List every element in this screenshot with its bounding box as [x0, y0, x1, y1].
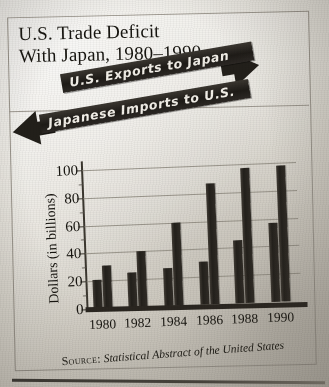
- bar-imports: [137, 251, 148, 307]
- title-line-1: U.S. Trade Deficit: [18, 20, 160, 44]
- y-minor-tick: [79, 184, 83, 185]
- x-tick-label: 1986: [196, 312, 223, 329]
- y-tick-label: 40: [66, 245, 82, 263]
- grid-line: [85, 245, 299, 254]
- bar-group: [92, 265, 113, 309]
- bar-exports: [198, 261, 209, 304]
- x-tick-label: 1988: [231, 311, 258, 328]
- grid-line: [82, 162, 296, 171]
- bar-group: [161, 222, 183, 306]
- bar-imports: [171, 222, 183, 306]
- x-tick-label: 1990: [267, 309, 294, 326]
- x-tick-label: 1984: [160, 314, 187, 331]
- x-tick-label: 1980: [89, 316, 116, 333]
- plot-area: 020406080100 198019821984198619881990: [82, 155, 302, 309]
- bar-group: [266, 165, 290, 302]
- x-tick-label: 1982: [124, 315, 151, 332]
- bar-group: [195, 183, 219, 305]
- y-tick-label: 60: [65, 218, 81, 236]
- bar-group: [231, 168, 255, 304]
- y-axis-label-text: Dollars (in billions): [42, 193, 62, 304]
- source-label: Source:: [61, 351, 101, 368]
- page-crumb-text: [2, 0, 122, 11]
- grid-line: [84, 217, 298, 226]
- figure-root: U.S. Trade Deficit With Japan, 1980–1990…: [0, 0, 329, 387]
- bar-chart: Dollars (in billions) 020406080100 19801…: [44, 155, 303, 337]
- bar-exports: [163, 268, 173, 306]
- y-tick-label: 80: [64, 190, 80, 208]
- y-tick-label: 20: [67, 273, 83, 291]
- grid-line: [86, 273, 300, 282]
- y-tick-label: 100: [55, 162, 78, 180]
- bar-exports: [128, 273, 138, 308]
- y-minor-tick: [80, 212, 84, 213]
- arrow-left-icon: [10, 111, 41, 149]
- y-minor-tick: [82, 268, 86, 269]
- y-minor-tick: [83, 295, 87, 296]
- y-tick-label: 0: [76, 301, 84, 318]
- bar-exports: [92, 279, 102, 309]
- bar-group: [127, 251, 148, 307]
- y-minor-tick: [81, 240, 85, 241]
- bar-imports: [102, 265, 113, 308]
- grid-line: [83, 190, 297, 199]
